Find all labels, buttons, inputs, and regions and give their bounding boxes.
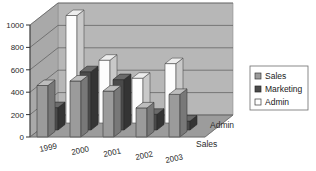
z-tick-label-admin: Admin [210,120,234,130]
y-tick-label: 200 [11,111,25,120]
y-tick-label: 800 [11,43,25,52]
x-tick-label: 1999 [39,141,59,154]
y-tick-label: 400 [11,88,25,97]
legend-label-marketing: Marketing [265,84,303,94]
x-tick-label: 2000 [71,144,91,157]
bar-2003-sales [169,89,187,137]
bar-2002-sales [136,102,154,137]
y-tick-label: 0 [20,133,25,142]
legend-label-admin: Admin [265,97,289,107]
bar-2000-sales [70,76,88,138]
z-tick-label-sales: Sales [196,139,217,149]
x-axis-labels: 1999 2000 2001 2002 2003 [39,141,185,165]
legend-swatch-marketing [255,86,261,92]
y-tick-label: 600 [11,66,25,75]
y-tick-marks [26,25,30,137]
x-tick-label: 2001 [103,146,123,159]
x-tick-label: 2003 [165,152,185,165]
x-tick-label: 2002 [135,149,155,162]
legend-swatch-admin [255,99,261,105]
chart-3d-bar: 1000 800 600 400 200 0 [0,0,316,171]
legend-label-sales: Sales [265,71,286,81]
legend[interactable]: Sales Marketing Admin [250,66,308,110]
bar-1999-sales [37,80,55,137]
chart-canvas: 1000 800 600 400 200 0 [0,0,316,171]
y-tick-label: 1000 [6,21,24,30]
bar-2001-sales [103,86,121,137]
legend-swatch-sales [255,73,261,79]
